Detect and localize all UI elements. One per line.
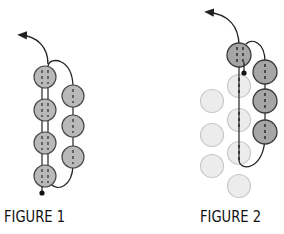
bead [62, 146, 84, 168]
beading-diagram [0, 0, 284, 234]
bead [62, 115, 84, 137]
bead-active [253, 89, 277, 113]
bead [62, 85, 84, 107]
figure-1-caption: FIGURE 1 [4, 207, 65, 226]
bead [34, 165, 56, 187]
bead-active [253, 120, 277, 144]
thread-start-knot [39, 190, 44, 195]
figure-2-caption: FIGURE 2 [200, 207, 261, 226]
thread-exit-arrow [20, 35, 48, 64]
bead-active [253, 60, 277, 84]
bead [34, 99, 56, 121]
thread-knot [241, 70, 246, 75]
figure-2-diagram [201, 12, 278, 198]
figure-1-diagram [20, 35, 84, 196]
bead-faded [201, 155, 224, 178]
bead [34, 66, 56, 88]
bead-faded [201, 124, 224, 147]
bead-active [227, 43, 251, 67]
bead-faded [201, 90, 224, 113]
bead [34, 132, 56, 154]
bead-faded [228, 175, 251, 198]
thread-exit-arrow [207, 12, 239, 46]
